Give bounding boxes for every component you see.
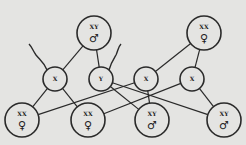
chromosome-label: XX xyxy=(199,23,209,30)
gamete-node-g4: X xyxy=(180,67,204,91)
male-symbol-icon: ♂ xyxy=(147,119,157,132)
offspring-node-o4: XY♂ xyxy=(207,103,241,137)
offspring-node-o2: XX♀ xyxy=(71,103,105,137)
chromosome-label: X xyxy=(53,75,58,82)
chromosome-label: X xyxy=(190,75,195,82)
chromosome-label: XX xyxy=(17,110,27,117)
sperm-tail-x-icon xyxy=(29,44,47,70)
edge-g3-o3 xyxy=(148,91,150,103)
edge-mother-g4 xyxy=(195,49,200,67)
edge-father-g2 xyxy=(97,50,100,67)
gamete-node-g3: X xyxy=(134,67,158,91)
edge-father-g1 xyxy=(63,46,83,70)
parent-node-mother: XX♀ xyxy=(187,16,221,50)
offspring-node-o3: XY♂ xyxy=(135,103,169,137)
female-symbol-icon: ♀ xyxy=(84,119,92,132)
edge-g4-o4 xyxy=(199,88,213,106)
edge-g1-o1 xyxy=(33,88,48,106)
chromosome-label: X xyxy=(144,75,149,82)
chromosome-label: XX xyxy=(83,110,93,117)
chromosome-label: Y xyxy=(98,75,104,82)
sperm-tail-y-icon xyxy=(109,44,121,70)
male-symbol-icon: ♂ xyxy=(89,32,99,45)
female-symbol-icon: ♀ xyxy=(200,32,208,45)
offspring-node-o1: XX♀ xyxy=(5,103,39,137)
chromosome-label: XY xyxy=(148,110,158,117)
female-symbol-icon: ♀ xyxy=(18,119,26,132)
gamete-node-g2: Y xyxy=(89,67,113,91)
nodes: XY♂XX♀XYXXXX♀XX♀XY♂XY♂ xyxy=(5,16,241,137)
inheritance-diagram: XY♂XX♀XYXXXX♀XX♀XY♂XY♂ xyxy=(0,0,246,145)
sperm-tails xyxy=(29,44,121,70)
gamete-node-g1: X xyxy=(43,67,67,91)
chromosome-label: XY xyxy=(90,23,100,30)
parent-node-father: XY♂ xyxy=(77,16,111,50)
male-symbol-icon: ♂ xyxy=(219,119,229,132)
edge-mother-g3 xyxy=(155,44,190,72)
chromosome-label: XY xyxy=(220,110,230,117)
